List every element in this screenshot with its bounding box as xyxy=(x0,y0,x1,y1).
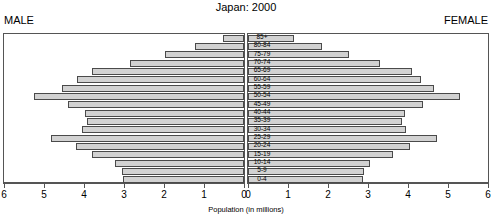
bar-row xyxy=(4,126,244,134)
age-label-60-64: 60-64 xyxy=(245,75,279,83)
age-label-30-34: 30-34 xyxy=(245,125,279,133)
bar-row xyxy=(4,34,244,42)
axis-tick xyxy=(288,183,289,188)
axis-tick xyxy=(164,183,165,188)
bar-row xyxy=(248,167,488,175)
age-label-5-9: 5-9 xyxy=(245,166,279,174)
female-bar-50-54 xyxy=(248,93,460,100)
bar-row xyxy=(248,84,488,92)
axis-tick-label: 3 xyxy=(121,189,127,200)
population-pyramid-chart: Japan: 2000 MALE FEMALE 85+80-8475-7970-… xyxy=(0,0,492,222)
male-bar-85+ xyxy=(223,35,244,42)
bar-row xyxy=(248,101,488,109)
bar-row xyxy=(248,76,488,84)
age-label-25-29: 25-29 xyxy=(245,133,279,141)
bar-row xyxy=(4,84,244,92)
bar-row xyxy=(248,142,488,150)
bar-row xyxy=(4,167,244,175)
bar-row xyxy=(248,126,488,134)
male-bar-5-9 xyxy=(122,168,244,175)
bar-row xyxy=(248,34,488,42)
bar-row xyxy=(248,109,488,117)
male-bar-65-69 xyxy=(92,68,244,75)
bar-row xyxy=(4,109,244,117)
axis-tick xyxy=(4,183,5,188)
bar-row xyxy=(248,42,488,50)
male-bar-rows xyxy=(4,34,244,182)
female-plot-panel xyxy=(247,33,489,183)
female-bar-rows xyxy=(248,34,488,182)
axis-tick-label: 1 xyxy=(201,189,207,200)
male-bar-35-39 xyxy=(87,118,244,125)
bar-row xyxy=(4,59,244,67)
bar-row xyxy=(4,134,244,142)
male-bar-45-49 xyxy=(68,101,244,108)
female-side-label: FEMALE xyxy=(444,14,488,26)
age-group-labels: 85+80-8475-7970-7465-6960-6455-5950-5445… xyxy=(245,33,279,183)
male-bar-15-19 xyxy=(92,151,244,158)
axis-tick-label: 4 xyxy=(81,189,87,200)
axis-tick-label: 2 xyxy=(161,189,167,200)
age-label-70-74: 70-74 xyxy=(245,58,279,66)
age-label-10-14: 10-14 xyxy=(245,158,279,166)
age-label-35-39: 35-39 xyxy=(245,116,279,124)
axis-tick xyxy=(124,183,125,188)
bar-row xyxy=(248,51,488,59)
male-x-axis: 6543210 xyxy=(3,183,245,189)
age-label-40-44: 40-44 xyxy=(245,108,279,116)
axis-tick-label: 5 xyxy=(41,189,47,200)
male-bar-75-79 xyxy=(165,51,244,58)
x-axis-label: Population (in millions) xyxy=(0,205,492,214)
axis-tick-label: 6 xyxy=(1,189,7,200)
bar-row xyxy=(248,117,488,125)
bar-row xyxy=(4,51,244,59)
age-label-20-24: 20-24 xyxy=(245,141,279,149)
female-x-axis: 0123456 xyxy=(247,183,489,189)
axis-tick xyxy=(328,183,329,188)
axis-tick-label: 2 xyxy=(325,189,331,200)
axis-tick xyxy=(448,183,449,188)
age-label-50-54: 50-54 xyxy=(245,91,279,99)
bar-row xyxy=(248,134,488,142)
male-bar-50-54 xyxy=(34,93,244,100)
chart-title: Japan: 2000 xyxy=(0,1,492,13)
bar-row xyxy=(248,59,488,67)
axis-tick-label: 0 xyxy=(245,189,251,200)
bar-row xyxy=(248,67,488,75)
bar-row xyxy=(4,142,244,150)
axis-tick xyxy=(408,183,409,188)
bar-row xyxy=(248,92,488,100)
axis-tick xyxy=(84,183,85,188)
age-label-75-79: 75-79 xyxy=(245,50,279,58)
male-bar-70-74 xyxy=(130,60,244,67)
age-label-0-4: 0-4 xyxy=(245,175,279,183)
axis-tick xyxy=(488,183,489,188)
male-side-label: MALE xyxy=(4,14,34,26)
axis-tick xyxy=(204,183,205,188)
axis-tick-label: 3 xyxy=(365,189,371,200)
male-bar-80-84 xyxy=(195,43,244,50)
axis-tick-label: 4 xyxy=(405,189,411,200)
male-bar-20-24 xyxy=(76,143,244,150)
age-label-55-59: 55-59 xyxy=(245,83,279,91)
axis-tick xyxy=(368,183,369,188)
axis-tick-label: 5 xyxy=(445,189,451,200)
bar-row xyxy=(4,76,244,84)
axis-tick xyxy=(248,183,249,188)
male-bar-25-29 xyxy=(51,135,244,142)
bar-row xyxy=(4,117,244,125)
axis-tick-label: 6 xyxy=(485,189,491,200)
male-plot-panel xyxy=(3,33,245,183)
age-label-15-19: 15-19 xyxy=(245,150,279,158)
bar-row xyxy=(4,67,244,75)
male-bar-10-14 xyxy=(115,160,244,167)
bar-row xyxy=(4,159,244,167)
axis-tick-label: 1 xyxy=(285,189,291,200)
bar-row xyxy=(248,159,488,167)
age-label-65-69: 65-69 xyxy=(245,66,279,74)
bar-row xyxy=(4,92,244,100)
bar-row xyxy=(4,101,244,109)
bar-row xyxy=(248,151,488,159)
axis-tick xyxy=(44,183,45,188)
age-label-85+: 85+ xyxy=(245,33,279,41)
